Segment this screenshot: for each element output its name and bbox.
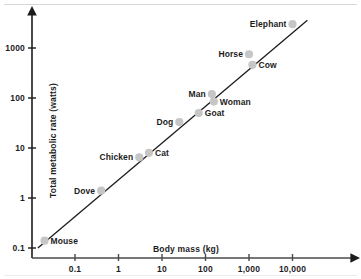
- data-point-label: Cat: [155, 148, 169, 158]
- data-point-label: Cow: [258, 60, 276, 70]
- data-point-marker: [175, 118, 183, 126]
- x-axis-tick-label: 1,000: [238, 264, 260, 274]
- data-point-label: Dove: [74, 186, 95, 196]
- data-point-marker: [245, 50, 253, 58]
- data-point-label: Elephant: [250, 19, 287, 29]
- data-point-marker: [208, 90, 216, 98]
- x-axis-tick-label: 1: [116, 264, 121, 274]
- metabolic-rate-scatter-chart: 0.111010010000.11101001,00010,000 MouseD…: [0, 0, 361, 279]
- x-axis-tick-label: 10,000: [279, 264, 306, 274]
- data-point-marker: [288, 20, 296, 28]
- y-axis-tick-label: 0.1: [0, 243, 25, 253]
- y-axis-tick-label: 10: [0, 143, 25, 153]
- data-point-marker: [97, 187, 105, 195]
- data-point-label: Mouse: [51, 236, 78, 246]
- x-axis-tick-label: 100: [198, 264, 213, 274]
- y-axis-title: Total metabolic rate (watts): [48, 83, 58, 198]
- data-point-marker: [40, 237, 48, 245]
- trend-line: [38, 20, 308, 248]
- data-point-label: Woman: [220, 97, 251, 107]
- x-axis-title: Body mass (kg): [153, 244, 219, 254]
- data-point-label: Dog: [156, 117, 173, 127]
- x-axis-tick-label: 10: [157, 264, 167, 274]
- data-point-marker: [195, 109, 203, 117]
- x-axis-tick-label: 0.1: [69, 264, 81, 274]
- data-point-label: Goat: [205, 108, 225, 118]
- data-point-marker: [145, 149, 153, 157]
- data-point-label: Horse: [218, 49, 243, 59]
- data-point-marker: [248, 61, 256, 69]
- data-point-label: Man: [189, 89, 206, 99]
- data-point-marker: [210, 97, 218, 105]
- data-point-label: Chicken: [99, 152, 133, 162]
- y-axis-tick-label: 100: [0, 93, 25, 103]
- data-point-marker: [135, 153, 143, 161]
- y-axis-tick-label: 1000: [0, 43, 25, 53]
- y-axis-tick-label: 1: [0, 193, 25, 203]
